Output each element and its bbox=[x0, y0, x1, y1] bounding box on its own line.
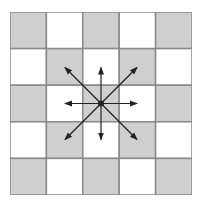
board-cell bbox=[10, 122, 46, 159]
board-cell bbox=[119, 158, 155, 195]
board-cell bbox=[46, 12, 82, 49]
checkerboard-diagram bbox=[10, 12, 192, 195]
board-cell bbox=[156, 12, 192, 49]
board-cell bbox=[10, 158, 46, 195]
board-cell bbox=[10, 12, 46, 49]
board-cell bbox=[156, 122, 192, 159]
board-svg bbox=[10, 12, 192, 195]
board-cell bbox=[83, 12, 119, 49]
board-cell bbox=[46, 158, 82, 195]
board-cell bbox=[83, 158, 119, 195]
board-cell bbox=[156, 85, 192, 122]
direction-arrows bbox=[65, 68, 137, 140]
board-cell bbox=[10, 49, 46, 86]
board-cell bbox=[156, 158, 192, 195]
center-dot bbox=[98, 101, 104, 107]
board-cell bbox=[10, 85, 46, 122]
board-cell bbox=[119, 12, 155, 49]
board-cell bbox=[156, 49, 192, 86]
